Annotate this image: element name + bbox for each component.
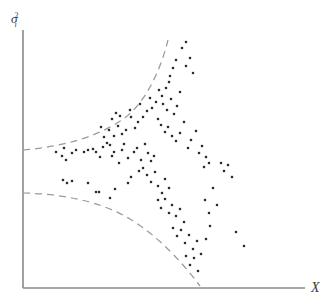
lower-envelope xyxy=(23,193,200,286)
y-axis-subscript: i xyxy=(14,20,16,29)
envelope-curves-group xyxy=(23,40,200,286)
data-point xyxy=(160,207,162,209)
data-point xyxy=(176,235,178,237)
data-point xyxy=(147,152,149,154)
upper-envelope xyxy=(23,40,168,150)
data-point xyxy=(134,127,136,129)
data-point xyxy=(111,118,113,120)
data-point xyxy=(166,109,168,111)
data-point xyxy=(212,187,214,189)
data-point xyxy=(99,156,101,158)
data-point xyxy=(179,91,181,93)
data-point xyxy=(103,136,105,138)
data-point xyxy=(136,147,138,149)
data-point xyxy=(198,152,200,154)
data-point xyxy=(146,110,148,112)
data-point xyxy=(150,181,152,183)
data-point xyxy=(189,264,191,266)
data-point xyxy=(208,212,210,214)
data-point xyxy=(113,151,115,153)
data-point xyxy=(98,191,100,193)
data-point xyxy=(161,192,163,194)
data-point xyxy=(193,257,195,259)
data-point xyxy=(185,65,187,67)
y-axis-label: σ2i xyxy=(11,12,17,29)
data-point xyxy=(185,41,187,43)
data-point xyxy=(150,160,152,162)
data-point xyxy=(200,253,202,255)
data-point xyxy=(201,145,203,147)
data-point xyxy=(142,116,144,118)
data-point xyxy=(160,124,162,126)
data-point xyxy=(195,130,197,132)
data-point xyxy=(209,225,211,227)
data-point xyxy=(95,191,97,193)
data-point xyxy=(66,182,68,184)
data-point xyxy=(168,81,170,83)
data-point xyxy=(185,255,187,257)
data-point xyxy=(71,152,73,154)
data-point xyxy=(87,182,89,184)
data-point xyxy=(151,107,153,109)
data-point xyxy=(127,182,129,184)
data-point xyxy=(157,185,159,187)
data-point xyxy=(123,143,125,145)
scatter-points-group xyxy=(55,41,245,272)
data-point xyxy=(71,180,73,182)
y-axis-superscript: 2 xyxy=(14,11,18,20)
data-point xyxy=(157,199,159,201)
data-point xyxy=(216,204,218,206)
data-point xyxy=(205,238,207,240)
data-point xyxy=(243,245,245,247)
data-point xyxy=(157,118,159,120)
data-point xyxy=(180,229,182,231)
data-point xyxy=(179,208,181,210)
data-point xyxy=(162,103,164,105)
data-point xyxy=(106,142,108,144)
data-point xyxy=(165,87,167,89)
data-point xyxy=(130,116,132,118)
data-point xyxy=(179,132,181,134)
data-point xyxy=(171,135,173,137)
data-point xyxy=(189,57,191,59)
data-point xyxy=(168,187,170,189)
data-point xyxy=(187,147,189,149)
data-point xyxy=(92,148,94,150)
data-point xyxy=(118,162,120,164)
data-point xyxy=(171,204,173,206)
data-point xyxy=(100,126,102,128)
data-point xyxy=(197,270,199,272)
data-point xyxy=(176,105,178,107)
data-point xyxy=(117,125,119,127)
data-point xyxy=(161,95,163,97)
data-point xyxy=(192,72,194,74)
data-point xyxy=(155,101,157,103)
data-point xyxy=(139,103,141,105)
data-point xyxy=(133,151,135,153)
data-point xyxy=(130,176,132,178)
data-point xyxy=(113,135,115,137)
data-point xyxy=(119,115,121,117)
data-point xyxy=(167,126,169,128)
data-point xyxy=(235,231,237,233)
data-point xyxy=(109,197,111,199)
data-point xyxy=(154,171,156,173)
data-point xyxy=(142,167,144,169)
data-point xyxy=(192,248,194,250)
data-point xyxy=(158,89,160,91)
data-point xyxy=(220,162,222,164)
heteroskedasticity-scatter-figure: σ2i X xyxy=(0,0,331,307)
data-point xyxy=(55,151,57,153)
data-point xyxy=(164,131,166,133)
data-point xyxy=(227,164,229,166)
data-point xyxy=(127,157,129,159)
data-point xyxy=(183,221,185,223)
data-point xyxy=(146,174,148,176)
data-point xyxy=(173,113,175,115)
data-point xyxy=(188,234,190,236)
data-point xyxy=(137,121,139,123)
data-point xyxy=(204,199,206,201)
data-point xyxy=(205,156,207,158)
data-point xyxy=(153,155,155,157)
data-point xyxy=(184,242,186,244)
